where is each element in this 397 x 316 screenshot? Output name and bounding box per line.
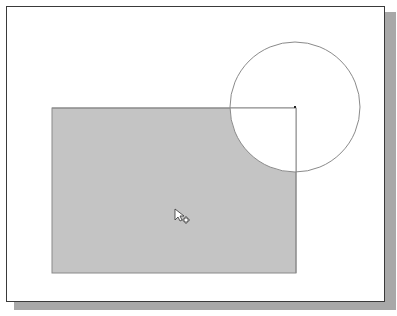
circle-center-point[interactable] [294,106,296,108]
drawing-layer[interactable] [0,0,397,316]
